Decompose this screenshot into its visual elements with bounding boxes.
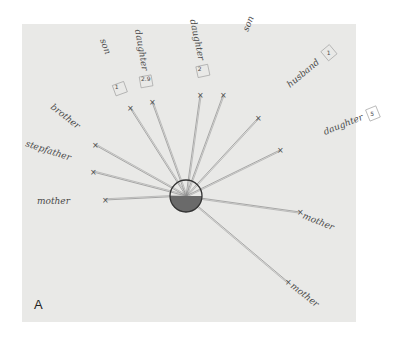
connector-line [187, 95, 201, 196]
connector-line [93, 172, 186, 196]
node-label: son [98, 37, 113, 55]
node-label: daughter [188, 18, 207, 62]
node-label: husband [285, 57, 321, 90]
connector-line [152, 102, 186, 196]
tag-value: 1 [115, 83, 119, 90]
node-label: stepfather [24, 138, 73, 162]
x-marker: × [197, 91, 204, 100]
tag-value: 1 [327, 49, 331, 56]
node-label: mother [301, 211, 336, 233]
tag-value: 5 [370, 110, 374, 117]
tag-value: 2 [198, 65, 202, 72]
connector-line [186, 197, 300, 213]
connector-line [185, 197, 287, 283]
x-marker: × [277, 146, 284, 155]
center-circle [170, 180, 202, 212]
node-stepfather: ×stepfather [24, 138, 186, 196]
x-marker: × [149, 98, 156, 107]
node-label: brother [49, 102, 83, 132]
node-daughter-2: ×daughter2 [186, 18, 210, 196]
node-brother: ×brother [49, 102, 187, 196]
node-label: son [241, 14, 256, 33]
x-marker: × [255, 114, 262, 123]
node-mother-in-law: ×mother [186, 196, 336, 232]
node-label: daughter [133, 29, 150, 73]
connector-line [153, 102, 187, 196]
node-mother: ×mother [37, 195, 186, 206]
network-diagram: ×son1×daughter2.9×daughter2×son8×husband… [0, 0, 399, 344]
x-marker: × [92, 141, 99, 150]
figure-label: A [34, 297, 43, 312]
node-label: daughter [322, 112, 365, 137]
node-label: mother [37, 196, 71, 206]
connector-line [186, 196, 300, 212]
connector-line [186, 196, 288, 282]
x-marker: × [220, 91, 227, 100]
x-marker: × [102, 196, 109, 205]
x-marker: × [127, 104, 134, 113]
tag-value: 2.9 [141, 75, 151, 82]
node-husband: ×husband1 [186, 45, 337, 197]
node-label: mother [289, 281, 322, 310]
x-marker: × [90, 168, 97, 177]
